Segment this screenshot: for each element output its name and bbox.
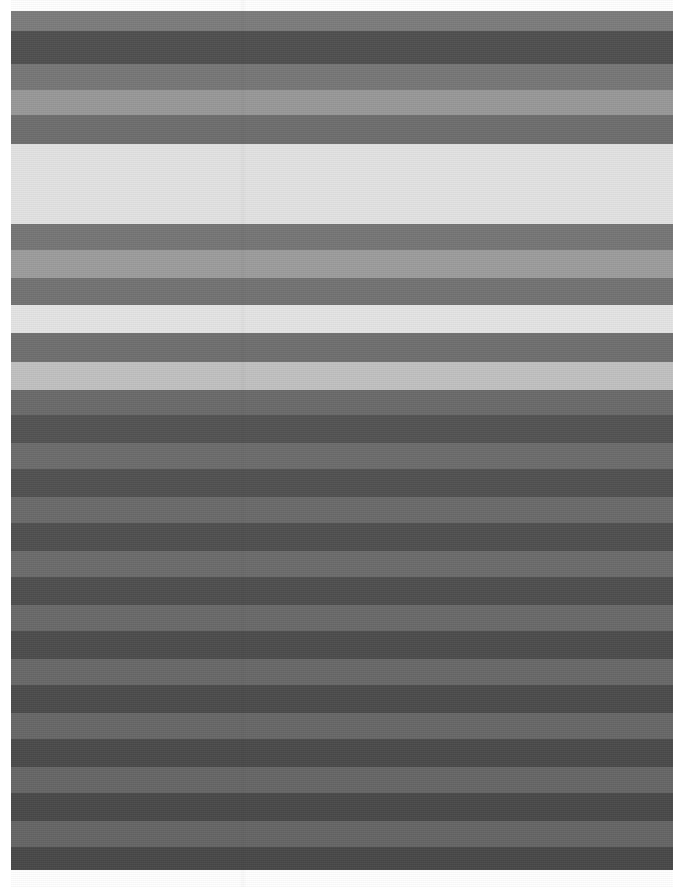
band-17 bbox=[11, 497, 673, 523]
band-09 bbox=[11, 278, 673, 305]
band-30 bbox=[11, 847, 673, 870]
band-08 bbox=[11, 250, 673, 278]
band-22 bbox=[11, 631, 673, 659]
band-12 bbox=[11, 362, 673, 390]
band-02 bbox=[11, 31, 673, 64]
band-16 bbox=[11, 469, 673, 497]
band-18 bbox=[11, 523, 673, 551]
band-05 bbox=[11, 115, 673, 144]
band-26 bbox=[11, 739, 673, 767]
band-06 bbox=[11, 144, 673, 224]
band-20 bbox=[11, 577, 673, 605]
band-11 bbox=[11, 333, 673, 362]
band-24 bbox=[11, 685, 673, 713]
band-21 bbox=[11, 605, 673, 631]
band-10 bbox=[11, 305, 673, 333]
band-01 bbox=[11, 11, 673, 31]
band-29 bbox=[11, 821, 673, 847]
stripe-pattern-canvas bbox=[0, 0, 683, 887]
band-19 bbox=[11, 551, 673, 577]
band-28 bbox=[11, 793, 673, 821]
band-23 bbox=[11, 659, 673, 685]
band-14 bbox=[11, 415, 673, 443]
band-04 bbox=[11, 90, 673, 115]
band-03 bbox=[11, 64, 673, 90]
stripe-field bbox=[11, 0, 673, 887]
band-07 bbox=[11, 224, 673, 250]
band-27 bbox=[11, 767, 673, 793]
band-25 bbox=[11, 713, 673, 739]
band-13 bbox=[11, 390, 673, 415]
band-15 bbox=[11, 443, 673, 469]
